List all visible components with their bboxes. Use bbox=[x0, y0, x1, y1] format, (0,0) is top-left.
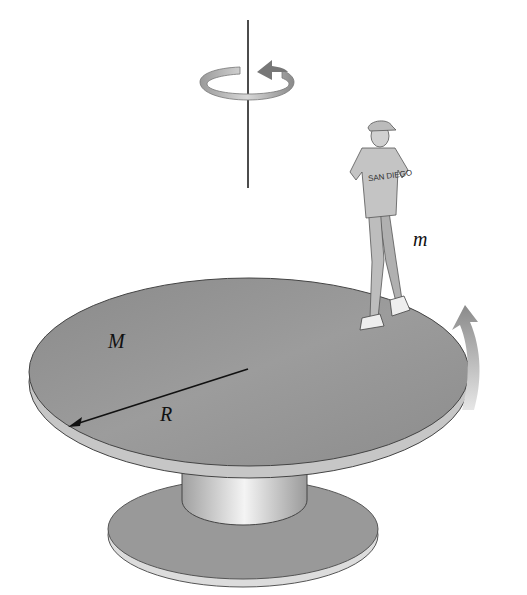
radius-label: R bbox=[160, 403, 172, 426]
turntable-diagram: SAN DIEGO bbox=[0, 0, 527, 595]
disk-mass-label: M bbox=[108, 330, 125, 353]
turntable-base bbox=[108, 470, 378, 587]
rotation-direction-icon bbox=[200, 60, 294, 100]
person-mass-label: m bbox=[413, 228, 427, 251]
